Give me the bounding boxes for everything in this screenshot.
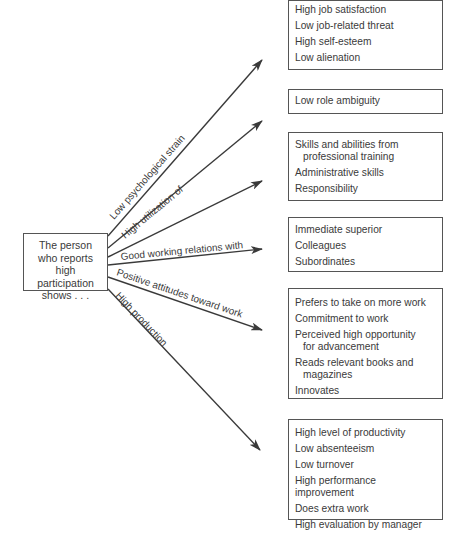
list-item: High job satisfaction [295,4,436,16]
list-item: Immediate superior [295,224,436,236]
list-item-text: Reads relevant books and [295,357,413,368]
list-item-continuation: professional training [295,151,436,163]
arrow-label-high-production: High production [114,290,170,348]
list-item: High level of productivity [295,427,436,439]
list-item-continuation: magazines [295,369,436,381]
outcome-box-role: Low role ambiguity [288,89,443,114]
arrow-positive-attitudes: Positive attitudes toward work [108,266,262,330]
list-item: High self-esteem [295,36,436,48]
outcome-box-production: High level of productivity Low absenteei… [288,419,443,520]
list-item: Skills and abilities from professional t… [295,139,436,163]
list-item: Prefers to take on more work [295,297,436,309]
list-item: Does extra work [295,503,436,515]
list-item: Low job-related threat [295,20,436,32]
list-item: Administrative skills [295,167,436,179]
list-item: Innovates [295,385,436,397]
outcome-box-utilization: Skills and abilities from professional t… [288,132,443,201]
list-item: Perceived high opportunity for advanceme… [295,329,436,353]
list-item-continuation: for advancement [295,341,436,353]
list-item-text: Perceived high opportunity [295,329,416,340]
arrow-good-working-relations-horizontal: Good working relations with [108,239,262,265]
source-text: The person who reports high participatio… [37,239,94,301]
outcome-box-relations: Immediate superior Colleagues Subordinat… [288,217,443,272]
list-item: Low alienation [295,52,436,64]
list-item: Low role ambiguity [295,95,436,107]
outcome-box-psychological: High job satisfaction Low job-related th… [288,0,443,70]
list-item-text: Skills and abilities from [295,139,399,150]
source-box: The person who reports high participatio… [23,233,108,291]
list-item: Colleagues [295,240,436,252]
list-item: High evaluation by manager [295,519,436,531]
arrow-low-psychological-strain: Low psychological strain [107,60,262,236]
arrow-label-good-working: Good working relations with [120,239,243,262]
list-item: Subordinates [295,256,436,268]
list-item: High performance improvement [295,475,436,499]
outcome-box-attitudes: Prefers to take on more work Commitment … [288,288,443,399]
list-item: Reads relevant books and magazines [295,357,436,381]
list-item: Low absenteeism [295,443,436,455]
list-item: Low turnover [295,459,436,471]
list-item: Responsibility [295,183,436,195]
list-item: Commitment to work [295,313,436,325]
